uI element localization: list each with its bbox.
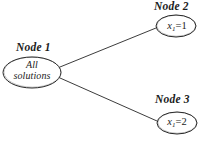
node1-label-line1: All [26, 59, 38, 70]
node3-value: 2 [181, 116, 186, 127]
node1-caption: Node 1 [16, 41, 51, 53]
node1-label-line2: solutions [3, 71, 61, 82]
diagram-canvas: Node 1 Node 2 Node 3 All solutions x1=1 … [0, 0, 200, 141]
edge-node1-node3 [60, 78, 157, 121]
node3-label: x1=2 [158, 116, 196, 129]
node2-caption: Node 2 [154, 0, 189, 12]
node3-caption: Node 3 [155, 93, 190, 105]
edge-node1-node2 [60, 28, 156, 67]
node1-label: All solutions [3, 60, 61, 81]
node2-value: 1 [181, 20, 186, 31]
node2-label: x1=1 [158, 20, 196, 33]
